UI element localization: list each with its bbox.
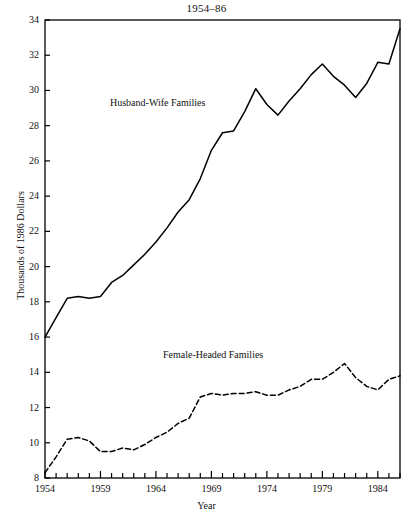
y-tick-label: 14 <box>13 367 39 377</box>
x-tick-label: 1959 <box>80 484 120 494</box>
series-label-female-headed: Female-Headed Families <box>163 349 263 360</box>
y-tick-label: 30 <box>13 85 39 95</box>
plot-area <box>0 0 413 520</box>
series-label-husband-wife: Husband-Wife Families <box>110 97 205 108</box>
y-tick-label: 12 <box>13 403 39 413</box>
x-tick-label: 1979 <box>302 484 342 494</box>
series-lines <box>45 29 400 473</box>
chart-figure: 1954–86 810121416182022242628303234 1954… <box>0 0 413 520</box>
y-axis-title: Thousands of 1986 Dollars <box>15 156 26 336</box>
x-tick-label: 1954 <box>25 484 65 494</box>
y-tick-label: 28 <box>13 121 39 131</box>
y-tick-label: 32 <box>13 50 39 60</box>
x-tick-label: 1984 <box>358 484 398 494</box>
x-tick-label: 1974 <box>247 484 287 494</box>
y-tick-label: 10 <box>13 438 39 448</box>
x-tick-label: 1969 <box>191 484 231 494</box>
y-tick-label: 8 <box>13 473 39 483</box>
x-axis-title: Year <box>0 500 413 511</box>
x-tick-label: 1964 <box>136 484 176 494</box>
y-tick-label: 34 <box>13 15 39 25</box>
